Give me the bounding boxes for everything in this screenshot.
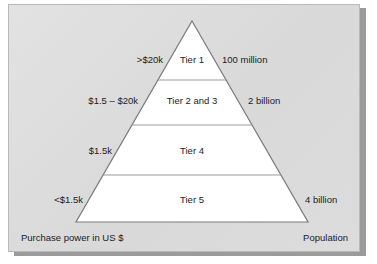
population-label-tier-2-3: 2 billion	[248, 96, 280, 106]
right-axis-caption: Population	[303, 233, 348, 243]
purchase-power-label-tier-2-3: $1.5 – $20k	[88, 96, 138, 106]
purchase-power-label-tier-1: >$20k	[137, 55, 163, 65]
purchase-power-label-tier-5: <$1.5k	[54, 195, 83, 205]
pyramid-figure: >$20k Tier 1 100 million $1.5 – $20k Tie…	[0, 0, 377, 264]
purchase-power-label-tier-4: $1.5k	[89, 146, 112, 156]
tier-label-tier-4: Tier 4	[180, 146, 204, 156]
population-label-tier-5: 4 billion	[305, 195, 337, 205]
tier-label-tier-1: Tier 1	[180, 55, 204, 65]
tier-label-tier-2-3: Tier 2 and 3	[167, 96, 217, 106]
pyramid-graphic	[0, 0, 377, 264]
pyramid-outline	[76, 21, 308, 222]
population-label-tier-1: 100 million	[222, 55, 267, 65]
left-axis-caption: Purchase power in US $	[21, 233, 123, 243]
tier-label-tier-5: Tier 5	[180, 195, 204, 205]
